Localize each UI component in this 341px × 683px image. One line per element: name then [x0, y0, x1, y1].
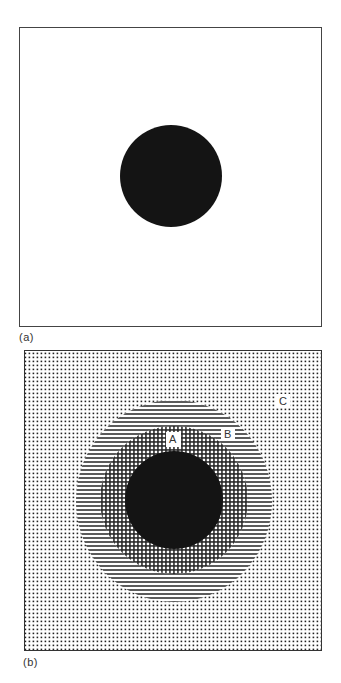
- figure-canvas: [0, 0, 341, 683]
- panel-b-caption: (b): [23, 656, 38, 668]
- panel-b-disc: [125, 451, 223, 549]
- panel-a-disc: [120, 125, 222, 227]
- zone-c-label: C: [279, 395, 287, 407]
- panel-b: [24, 350, 322, 651]
- zone-a-label: A: [169, 433, 177, 445]
- panel-a: [20, 28, 322, 327]
- panel-a-caption: (a): [19, 331, 34, 343]
- zone-b-label: B: [224, 428, 232, 440]
